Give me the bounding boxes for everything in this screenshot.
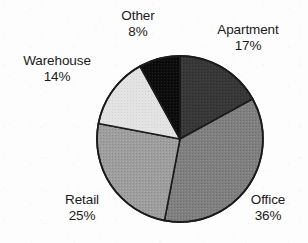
slice-label-other-value: 8% (102, 24, 174, 40)
slice-label-office-value: 36% (234, 208, 302, 224)
slice-label-apartment-name: Apartment (196, 22, 300, 38)
pie-chart: Other 8% Apartment 17% Warehouse 14% Ret… (0, 0, 308, 243)
slice-label-apartment: Apartment 17% (196, 22, 300, 53)
slice-label-warehouse-name: Warehouse (2, 53, 112, 69)
slice-label-warehouse: Warehouse 14% (2, 53, 112, 84)
slice-label-other: Other 8% (102, 8, 174, 39)
slice-label-retail: Retail 25% (44, 192, 120, 223)
slice-label-apartment-value: 17% (196, 38, 300, 54)
slice-label-warehouse-value: 14% (2, 69, 112, 85)
slice-label-retail-name: Retail (44, 192, 120, 208)
slice-label-other-name: Other (102, 8, 174, 24)
slice-label-retail-value: 25% (44, 208, 120, 224)
slice-label-office: Office 36% (234, 192, 302, 223)
slice-label-office-name: Office (234, 192, 302, 208)
